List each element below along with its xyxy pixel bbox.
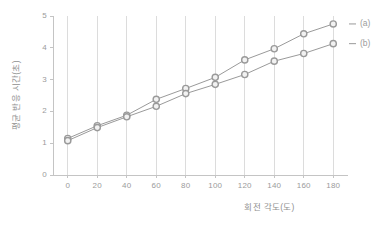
y-tick-label: 0 xyxy=(27,170,47,179)
data-point-marker xyxy=(330,21,336,27)
data-point-marker xyxy=(301,31,307,37)
y-tick-label: 1 xyxy=(27,138,47,147)
y-tick-label: 2 xyxy=(27,106,47,115)
x-tick-label: 60 xyxy=(141,181,171,190)
data-point-marker xyxy=(153,96,159,102)
data-series-layer xyxy=(65,21,337,144)
x-tick-label: 20 xyxy=(82,181,112,190)
data-point-marker xyxy=(271,58,277,64)
data-point-marker xyxy=(271,46,277,52)
plot-area xyxy=(0,0,389,225)
data-point-marker xyxy=(212,81,218,87)
y-tick-label: 4 xyxy=(27,43,47,52)
data-point-marker xyxy=(242,71,248,77)
x-tick-label: 0 xyxy=(53,181,83,190)
series-line-1 xyxy=(68,24,334,138)
data-point-marker xyxy=(153,103,159,109)
x-tick-label: 140 xyxy=(259,181,289,190)
x-tick-label: 40 xyxy=(112,181,142,190)
series-line-2 xyxy=(68,44,334,141)
y-axis-label: 평균 반응 시간(초) xyxy=(9,57,21,133)
x-tick-label: 180 xyxy=(318,181,348,190)
data-point-marker xyxy=(212,74,218,80)
x-tick-label: 120 xyxy=(230,181,260,190)
legend-sample-lines xyxy=(349,24,356,44)
x-tick-label: 160 xyxy=(289,181,319,190)
legend-item-2: (b) xyxy=(360,38,370,48)
data-point-marker xyxy=(183,90,189,96)
data-point-marker xyxy=(330,41,336,47)
x-tick-label: 100 xyxy=(200,181,230,190)
y-tick-label: 5 xyxy=(27,11,47,20)
x-axis-label: 회전 각도(도) xyxy=(0,200,389,212)
chart-figure: 평균 반응 시간(초) 회전 각도(도) 012345 020406080100… xyxy=(0,0,389,225)
y-tick-label: 3 xyxy=(27,75,47,84)
gridlines xyxy=(68,16,334,175)
x-tick-label: 80 xyxy=(171,181,201,190)
data-point-marker xyxy=(242,57,248,63)
data-point-marker xyxy=(301,50,307,56)
data-point-marker xyxy=(94,125,100,131)
data-point-marker xyxy=(124,114,130,120)
data-point-marker xyxy=(65,138,71,144)
legend-item-1: (a) xyxy=(360,18,370,28)
